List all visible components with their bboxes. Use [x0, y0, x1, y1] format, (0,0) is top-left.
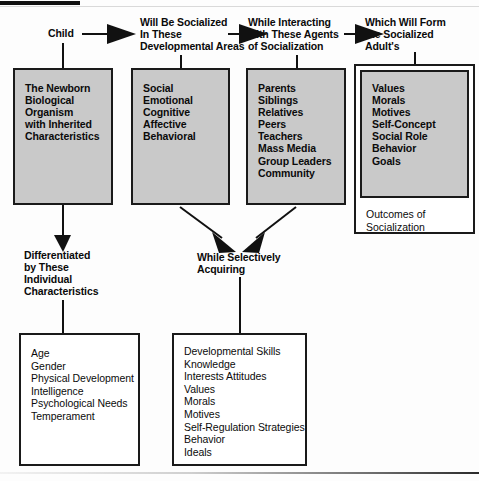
arrowhead-child-to-dev	[107, 24, 136, 44]
arrowhead-down-differentiated	[54, 235, 71, 252]
arrowhead-agents-diagonal	[242, 232, 265, 253]
arrow-layer	[0, 0, 479, 481]
socialization-diagram: Child Will Be Socialized In These Develo…	[0, 0, 479, 481]
connector-dev-diagonal	[180, 207, 222, 238]
arrowhead-agents-to-adult	[355, 24, 384, 44]
connector-agents-diagonal	[256, 207, 296, 238]
arrowhead-dev-diagonal	[212, 232, 236, 253]
arrowhead-dev-to-agents	[239, 24, 268, 44]
page-bottom-rule	[0, 472, 479, 474]
